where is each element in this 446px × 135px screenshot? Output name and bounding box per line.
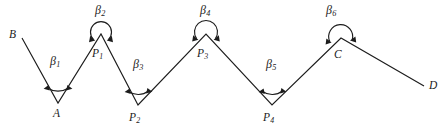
angle-mark-beta4 — [192, 20, 220, 41]
angle-label-beta1: β1 — [50, 55, 60, 67]
vertex-label-P4: P4 — [263, 112, 274, 124]
vertex-label-P3-base: P — [197, 47, 204, 59]
traverse-polyline — [22, 34, 424, 105]
angle-mark-beta2 — [89, 22, 113, 43]
vertex-label-P2-sub: 2 — [136, 116, 140, 125]
vertex-label-C: C — [334, 49, 342, 61]
angle-label-beta6: β6 — [326, 4, 336, 16]
vertex-label-P4-base: P — [263, 111, 270, 123]
angle-label-beta6-sub: 6 — [332, 9, 336, 18]
angle-mark-beta6 — [326, 25, 357, 45]
vertex-label-D: D — [429, 80, 437, 92]
vertex-label-P1: P1 — [92, 48, 103, 60]
vertex-label-P4-sub: 4 — [270, 116, 274, 125]
angle-label-beta4: β4 — [200, 4, 210, 16]
angle-label-beta2: β2 — [95, 4, 105, 16]
vertex-label-P1-base: P — [92, 47, 99, 59]
vertex-label-P3: P3 — [197, 48, 208, 60]
angle-label-beta2-sub: 2 — [101, 9, 105, 18]
angle-label-beta3: β3 — [133, 58, 143, 70]
figure-canvas — [0, 0, 446, 135]
vertex-label-P1-sub: 1 — [99, 52, 103, 61]
vertex-label-A: A — [53, 108, 60, 120]
angle-label-beta1-sub: 1 — [56, 60, 60, 69]
angle-label-beta5: β5 — [266, 58, 276, 70]
vertex-label-B: B — [9, 29, 16, 41]
angle-mark-beta1 — [44, 85, 73, 91]
angle-mark-beta5 — [259, 88, 287, 95]
angle-label-beta3-sub: 3 — [139, 63, 143, 72]
geometry-figure: B A P1 P2 P3 P4 C D β1 β2 β3 β4 β5 β6 — [0, 0, 446, 135]
vertex-label-P2: P2 — [129, 112, 140, 124]
angle-label-beta5-sub: 5 — [272, 63, 276, 72]
vertex-label-P3-sub: 3 — [204, 52, 208, 61]
vertex-label-P2-base: P — [129, 111, 136, 123]
angle-label-beta4-sub: 4 — [206, 9, 210, 18]
